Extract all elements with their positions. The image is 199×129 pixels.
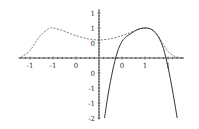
x-axis: -1-10011 <box>19 57 185 71</box>
y-tick-label: 0 <box>91 70 95 78</box>
y-tick-label: -1 <box>88 100 95 108</box>
y-tick-label: -2 <box>88 115 95 123</box>
x-tick-label: -1 <box>50 62 57 70</box>
y-tick-label: 1 <box>91 25 95 33</box>
series-layer <box>21 28 182 118</box>
solid-approximation-curve <box>105 28 178 118</box>
y-tick-label: 0 <box>91 40 95 48</box>
y-tick-label: 1 <box>91 10 95 18</box>
plot: -1-10011 1100-1-1-2 <box>0 0 199 129</box>
x-tick-label: -1 <box>27 62 34 70</box>
x-tick-label: 0 <box>120 62 124 70</box>
y-axis: 1100-1-1-2 <box>88 10 100 123</box>
x-tick-label: 0 <box>74 62 78 70</box>
dashed-function-curve <box>21 28 182 58</box>
x-tick-label: 1 <box>143 62 147 70</box>
y-tick-label: -1 <box>88 85 95 93</box>
